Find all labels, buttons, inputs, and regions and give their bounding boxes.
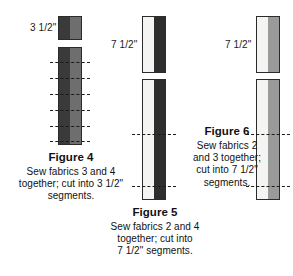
figure-5-cut-segment (142, 16, 166, 73)
figure-5-caption-line-1: Sew fabrics 2 and 4 (88, 221, 222, 233)
figure-5-strip-band-fabric-4 (154, 80, 165, 199)
figure-4-title: Figure 4 (4, 150, 138, 165)
figure-4-caption-line-2: together; cut into 3 1/2" (4, 178, 138, 190)
figure-4-cut-line (50, 78, 90, 79)
figure-6-cut-segment (256, 16, 280, 73)
figure-6-segment-band-fabric-3 (268, 17, 279, 72)
figure-5-cut-line (132, 134, 176, 135)
figure-4-segment-band-fabric-3 (59, 17, 70, 39)
figure-6-segment-band-fabric-2 (257, 17, 268, 72)
figure-5-title: Figure 5 (88, 205, 222, 220)
figure-4-cut-line (50, 94, 90, 95)
figure-4-dimension-label: 3 1/2" (30, 22, 56, 33)
figure-4-cut-line (50, 141, 90, 142)
figure-5-strip-band-fabric-2 (143, 80, 154, 199)
figure-6-caption-line-2: and 3 together; (178, 152, 276, 164)
figure-5-segment-band-fabric-4 (154, 17, 165, 72)
figure-6-dimension-label: 7 1/2" (225, 39, 251, 50)
figure-4-cut-line (50, 110, 90, 111)
figure-4-caption: Figure 4 Sew fabrics 3 and 4 together; c… (4, 150, 138, 203)
figure-5-caption-line-2: together; cut into (88, 233, 222, 245)
figure-5-dimension-label: 7 1/2" (111, 39, 137, 50)
figure-6-title: Figure 6 (178, 124, 276, 139)
figure-5-caption-line-3: 7 1/2" segments. (88, 245, 222, 257)
figure-4-cut-line (50, 62, 90, 63)
figure-6-caption-line-3: cut into 7 1/2" (178, 164, 276, 176)
figure-6-caption-line-4: segments. (178, 177, 276, 189)
figure-6-caption-line-1: Sew fabrics 2 (178, 140, 276, 152)
figure-5-segment-band-fabric-2 (143, 17, 154, 72)
figure-4-cut-segment (58, 16, 82, 40)
figure-4-caption-line-1: Sew fabrics 3 and 4 (4, 166, 138, 178)
figure-4-segment-band-fabric-4 (70, 17, 81, 39)
figure-5-caption: Figure 5 Sew fabrics 2 and 4 together; c… (88, 205, 222, 258)
figure-4-caption-line-3: segments. (4, 190, 138, 202)
figure-4-cut-line (50, 126, 90, 127)
figure-illustration-canvas: 3 1/2" Figure 4 Sew fabrics 3 and 4 toge… (0, 0, 293, 276)
figure-5-cut-line (132, 186, 176, 187)
figure-5-sewn-strip (142, 79, 166, 200)
figure-6-caption: Figure 6 Sew fabrics 2 and 3 together; c… (178, 124, 276, 189)
